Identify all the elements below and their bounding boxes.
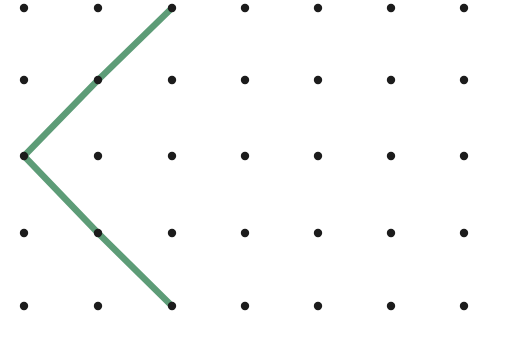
grid-dot-r1-c0[interactable] [20, 76, 28, 84]
grid-dot-r4-c5[interactable] [387, 302, 395, 310]
grid-dot-r1-c1[interactable] [94, 76, 102, 84]
grid-dot-r0-c6[interactable] [460, 4, 468, 12]
dot-grid-canvas: open angle (chevron pointing left) Dot g… [0, 0, 525, 338]
grid-dot-r4-c1[interactable] [94, 302, 102, 310]
grid-dot-r3-c5[interactable] [387, 229, 395, 237]
grid-dot-r0-c0[interactable] [20, 4, 28, 12]
grid-dot-r1-c4[interactable] [314, 76, 322, 84]
grid-dot-r0-c5[interactable] [387, 4, 395, 12]
geoboard-svg[interactable] [0, 0, 525, 338]
grid-dot-r3-c1[interactable] [94, 229, 102, 237]
grid-dot-r3-c2[interactable] [168, 229, 176, 237]
grid-dot-r2-c5[interactable] [387, 152, 395, 160]
canvas-background [0, 0, 525, 338]
grid-dot-r3-c4[interactable] [314, 229, 322, 237]
grid-dot-r4-c4[interactable] [314, 302, 322, 310]
grid-dot-r2-c4[interactable] [314, 152, 322, 160]
grid-dot-r3-c3[interactable] [241, 229, 249, 237]
grid-dot-r2-c3[interactable] [241, 152, 249, 160]
grid-dot-r0-c1[interactable] [94, 4, 102, 12]
grid-dot-r4-c3[interactable] [241, 302, 249, 310]
grid-dot-r2-c0[interactable] [20, 152, 28, 160]
grid-dot-r4-c0[interactable] [20, 302, 28, 310]
grid-dot-r4-c6[interactable] [460, 302, 468, 310]
grid-dot-r4-c2[interactable] [168, 302, 176, 310]
grid-dot-r3-c6[interactable] [460, 229, 468, 237]
grid-dot-r3-c0[interactable] [20, 229, 28, 237]
grid-dot-r1-c5[interactable] [387, 76, 395, 84]
grid-dot-r1-c2[interactable] [168, 76, 176, 84]
grid-dot-r0-c3[interactable] [241, 4, 249, 12]
grid-dot-r2-c2[interactable] [168, 152, 176, 160]
grid-dot-r0-c2[interactable] [168, 4, 176, 12]
grid-dot-r1-c6[interactable] [460, 76, 468, 84]
grid-dot-r2-c6[interactable] [460, 152, 468, 160]
grid-dot-r1-c3[interactable] [241, 76, 249, 84]
grid-dot-r2-c1[interactable] [94, 152, 102, 160]
grid-dot-r0-c4[interactable] [314, 4, 322, 12]
